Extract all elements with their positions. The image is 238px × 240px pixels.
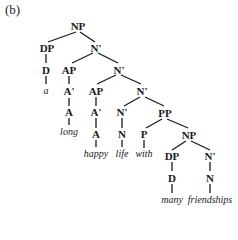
word-a: a <box>44 85 49 97</box>
node-np-root: NP <box>71 20 86 32</box>
node-abar: A' <box>91 106 102 118</box>
node-ap: AP <box>89 85 104 97</box>
node-abar: A' <box>64 85 75 97</box>
node-dp: DP <box>165 150 180 162</box>
node-dp: DP <box>40 42 55 54</box>
node-a: A <box>65 106 73 118</box>
node-np: NP <box>182 129 197 141</box>
word-life: life <box>116 148 129 160</box>
node-p: P <box>141 128 148 140</box>
word-happy: happy <box>84 148 108 160</box>
word-with: with <box>135 148 152 160</box>
node-n: N <box>118 128 126 140</box>
word-friendships: friendships <box>188 194 232 206</box>
node-ap: AP <box>62 64 77 76</box>
node-nbar: N' <box>117 106 128 118</box>
node-n: N <box>206 172 214 184</box>
node-nbar: N' <box>137 85 148 97</box>
node-pp: PP <box>158 107 171 119</box>
node-a: A <box>92 128 100 140</box>
word-long: long <box>60 126 78 138</box>
node-nbar: N' <box>114 64 125 76</box>
word-many: many <box>161 194 183 206</box>
node-nbar: N' <box>91 42 102 54</box>
node-d: D <box>42 64 50 76</box>
node-nbar: N' <box>205 150 216 162</box>
node-d: D <box>168 172 176 184</box>
